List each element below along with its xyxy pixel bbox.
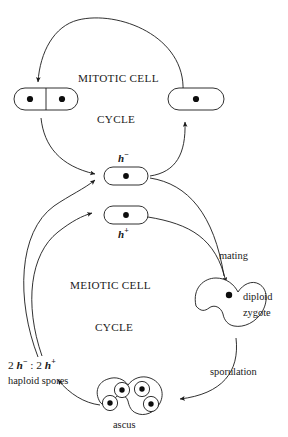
single-cell xyxy=(168,88,224,110)
meiotic-cycle-title-line2: CYCLE xyxy=(95,321,133,334)
dividing-cell xyxy=(14,88,78,110)
haploid-spores-label: haploid spores xyxy=(8,375,68,387)
ascus xyxy=(97,377,162,415)
h-plus-label-sign: + xyxy=(124,226,129,235)
edge-spores-to-hminus-curve xyxy=(24,180,95,357)
ratio-h-plus-sign: + xyxy=(51,357,56,366)
ratio-separator: : 2 xyxy=(27,359,44,371)
haploid-spores-ratio: 2 h− : 2 h+ xyxy=(8,357,56,372)
h-minus-label: h− xyxy=(118,150,129,164)
mitotic-cycle-title-line1: MITOTIC CELL xyxy=(78,72,159,85)
mitotic-cycle-title-line2: CYCLE xyxy=(97,113,135,126)
meiotic-cycle-title-line1: MEIOTIC CELL xyxy=(70,279,151,292)
ratio-prefix: 2 xyxy=(8,359,17,371)
ascus-label: ascus xyxy=(113,419,136,431)
edge-hminus-to-single-curve xyxy=(150,122,185,176)
h-minus-label-sign: − xyxy=(124,150,129,159)
edge-hminus-to-zygote-curve xyxy=(150,178,224,276)
h-plus-label: h+ xyxy=(118,226,129,240)
h-plus-cell xyxy=(104,206,148,224)
yeast-life-cycle-diagram: MITOTIC CELL CYCLE MEIOTIC CELL CYCLE h−… xyxy=(0,0,288,437)
diploid-zygote-label-line2: zygote xyxy=(243,307,271,319)
sporulation-label: sporulation xyxy=(210,366,257,378)
edge-dividing-to-hminus-curve xyxy=(41,118,95,174)
mating-label: mating xyxy=(219,250,248,262)
edge-hplus-to-zygote-curve xyxy=(148,217,226,282)
h-minus-cell xyxy=(104,167,148,185)
diploid-zygote-label-line1: diploid xyxy=(243,291,272,303)
